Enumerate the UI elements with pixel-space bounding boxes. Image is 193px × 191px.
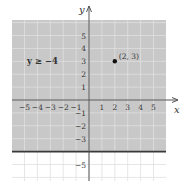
x-tick-label: 5 — [151, 103, 156, 112]
point-marker — [113, 59, 117, 63]
y-axis-label: y — [78, 4, 85, 15]
x-tick-label: −3 — [45, 103, 56, 112]
inequality-label: y ≥ −4 — [26, 56, 58, 66]
y-tick-label: 3 — [81, 57, 86, 66]
y-tick-label: −2 — [75, 122, 86, 131]
x-axis-label: x — [174, 104, 180, 115]
x-tick-label: −4 — [32, 103, 43, 112]
y-tick-label: −5 — [75, 161, 86, 170]
y-tick-label: 4 — [81, 44, 86, 53]
graph-inequality: xy−5−4−3−2−11234554321−1−2−3−5(2, 3)y ≥ … — [0, 0, 193, 191]
x-tick-label: −5 — [19, 103, 30, 112]
x-tick-label: 1 — [100, 103, 105, 112]
x-tick-label: −2 — [58, 103, 69, 112]
y-tick-label: 2 — [81, 70, 86, 79]
y-tick-label: 5 — [81, 32, 86, 41]
x-tick-label: 2 — [112, 103, 117, 112]
y-tick-label: 1 — [81, 83, 86, 92]
y-tick-label: −1 — [75, 109, 86, 118]
point-label: (2, 3) — [119, 52, 139, 61]
y-tick-label: −3 — [75, 135, 86, 144]
x-tick-label: 3 — [125, 103, 130, 112]
x-tick-label: 4 — [138, 103, 143, 112]
